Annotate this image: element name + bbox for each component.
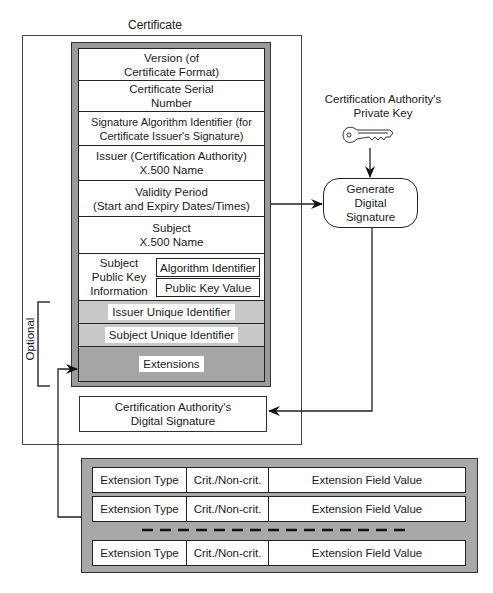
- key-icon: [343, 127, 393, 142]
- optional-bracket: [38, 302, 50, 386]
- arrow-extensions-link: [58, 369, 81, 517]
- arrow-generate-to-ca-signature: [269, 228, 372, 411]
- connector-lines: [0, 0, 493, 593]
